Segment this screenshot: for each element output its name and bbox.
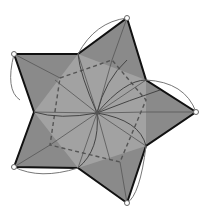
star-fold-diagram <box>0 0 208 218</box>
vertex-top-left <box>12 52 17 57</box>
vertex-bottom <box>125 201 130 206</box>
vertex-right <box>194 110 199 115</box>
vertex-top <box>125 16 130 21</box>
vertex-bottom-left <box>12 165 17 170</box>
center-point <box>95 111 99 115</box>
diagram-canvas <box>0 0 208 218</box>
